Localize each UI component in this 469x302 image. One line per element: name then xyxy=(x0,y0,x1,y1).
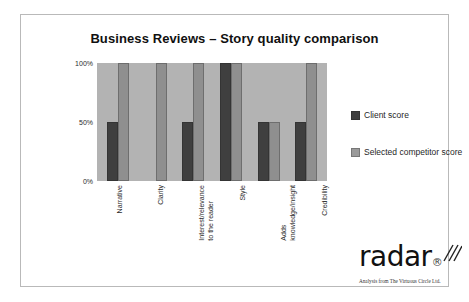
y-axis-tick: 50% xyxy=(79,119,93,126)
legend-label: Selected competitor score xyxy=(364,147,462,158)
bar-group xyxy=(287,63,325,181)
x-axis-category-label: Interest/relevanceto the reader xyxy=(198,185,215,241)
x-axis-category: Addsknowledge/insight xyxy=(263,183,304,263)
x-axis-category-label: Addsknowledge/insight xyxy=(280,185,297,241)
bar-group xyxy=(174,63,212,181)
x-axis: NarrativeClarityInterest/relevanceto the… xyxy=(97,183,347,263)
x-axis-category: Narrative xyxy=(99,183,140,263)
x-axis-category: Interest/relevanceto the reader xyxy=(181,183,222,263)
bar-competitor[interactable] xyxy=(118,63,129,181)
bar-client[interactable] xyxy=(107,122,118,181)
bar-competitor[interactable] xyxy=(269,122,280,181)
bar-competitor[interactable] xyxy=(193,63,204,181)
chart-plot-wrapper: 0%50%100% xyxy=(77,63,327,181)
logo-wordmark-text: radar® xyxy=(359,243,442,277)
legend-item[interactable]: Selected competitor score xyxy=(351,147,469,158)
bar-competitor[interactable] xyxy=(306,63,317,181)
x-axis-category: Style xyxy=(222,183,263,263)
bar-group xyxy=(212,63,250,181)
signal-arcs-icon xyxy=(440,239,462,257)
x-axis-category-label: Narrative xyxy=(116,185,125,213)
bar-group xyxy=(137,63,175,181)
bar-client[interactable] xyxy=(295,122,306,181)
x-axis-category-label: Clarity xyxy=(157,185,166,205)
plot-area xyxy=(97,63,327,181)
legend-swatch xyxy=(351,148,360,157)
bar-competitor[interactable] xyxy=(231,63,242,181)
x-axis-category: Credibility xyxy=(304,183,345,263)
radar-logo: radar® Analysis from The Virtuous Circle… xyxy=(359,243,469,285)
y-axis-tick: 0% xyxy=(83,178,93,185)
bar-client[interactable] xyxy=(258,122,269,181)
logo-tagline: Analysis from The Virtuous Circle Ltd. xyxy=(359,278,469,285)
bar-group xyxy=(250,63,288,181)
legend-item[interactable]: Client score xyxy=(351,110,469,121)
y-axis: 0%50%100% xyxy=(77,63,97,181)
x-axis-category: Clarity xyxy=(140,183,181,263)
y-axis-tick: 100% xyxy=(75,60,93,67)
bars-layer xyxy=(97,63,327,181)
bar-group xyxy=(99,63,137,181)
legend-swatch xyxy=(351,111,360,120)
bar-client[interactable] xyxy=(220,63,231,181)
x-axis-category-label: Credibility xyxy=(321,185,330,216)
chart-legend: Client scoreSelected competitor score xyxy=(351,110,469,183)
slide-frame: Business Reviews – Story quality compari… xyxy=(20,14,449,287)
chart-title: Business Reviews – Story quality compari… xyxy=(21,31,448,46)
bar-client[interactable] xyxy=(182,122,193,181)
x-axis-category-label: Style xyxy=(239,185,248,201)
logo-word: radar xyxy=(359,240,432,273)
legend-label: Client score xyxy=(364,110,409,121)
bar-competitor[interactable] xyxy=(156,63,167,181)
